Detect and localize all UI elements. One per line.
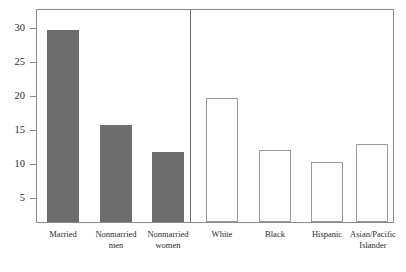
y-tick-mark-30 <box>30 28 36 29</box>
category-label-asian-pacific-islander: Asian/Pacific Islander <box>340 229 406 251</box>
bar-white <box>206 98 238 222</box>
bar-black <box>259 150 291 222</box>
y-tick-label-20: 20 <box>15 88 26 104</box>
y-tick-mark-10 <box>30 164 36 165</box>
bar-hispanic <box>311 162 343 222</box>
y-tick-label-5: 5 <box>20 190 25 206</box>
y-tick-mark-25 <box>30 62 36 63</box>
y-tick-mark-5 <box>30 198 36 199</box>
bar-nonmarried-men <box>100 125 132 222</box>
y-tick-label-15: 15 <box>15 122 26 138</box>
y-tick-mark-20 <box>30 96 36 97</box>
y-tick-mark-15 <box>30 130 36 131</box>
panel-divider <box>190 9 191 223</box>
y-tick-label-25: 25 <box>15 54 26 70</box>
bar-chart: 5 10 15 20 25 30 Married N <box>0 0 406 272</box>
bar-nonmarried-women <box>152 152 184 222</box>
bar-married <box>47 30 79 222</box>
y-tick-label-10: 10 <box>15 156 26 172</box>
bar-asian-pacific-islander <box>356 144 388 222</box>
y-tick-label-30: 30 <box>15 20 26 36</box>
